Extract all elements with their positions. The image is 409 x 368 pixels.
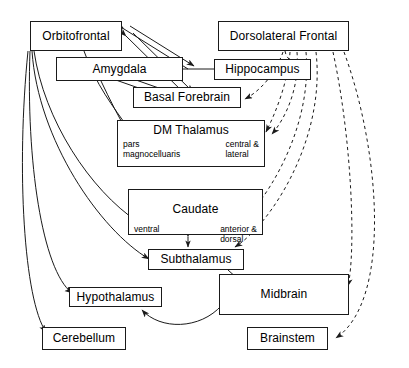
node-midbrain[interactable]: Midbrain — [219, 274, 349, 315]
node-brainstem-label: Brainstem — [260, 332, 315, 345]
circuit-diagram: Orbitofrontal Dorsolateral Frontal Amygd… — [0, 0, 409, 368]
edge-orbitofrontal-hypothalamus — [29, 51, 72, 293]
node-caudate-label: Caudate — [172, 203, 218, 216]
node-dorsolateral-frontal-label: Dorsolateral Frontal — [230, 30, 337, 43]
node-subthalamus-label: Subthalamus — [160, 253, 231, 266]
node-cerebellum[interactable]: Cerebellum — [42, 327, 126, 350]
node-hippocampus-label: Hippocampus — [225, 63, 299, 76]
caudate-sub-left: ventral — [134, 224, 160, 245]
node-hypothalamus[interactable]: Hypothalamus — [69, 287, 162, 307]
node-caudate[interactable]: Caudate ventral anterior & dorsal — [128, 189, 263, 235]
edge-dorsolateral-midbrain — [333, 52, 352, 286]
node-orbitofrontal[interactable]: Orbitofrontal — [30, 21, 122, 51]
node-hippocampus[interactable]: Hippocampus — [214, 59, 311, 80]
dm-thalamus-sub-right: central & lateral — [225, 139, 259, 160]
caudate-sub-right: anterior & dorsal — [220, 224, 257, 245]
node-dorsolateral-frontal[interactable]: Dorsolateral Frontal — [218, 21, 349, 51]
node-midbrain-label: Midbrain — [261, 288, 308, 301]
node-brainstem[interactable]: Brainstem — [247, 327, 328, 350]
edge-midbrain-hypothalamus — [142, 305, 222, 324]
node-dm-thalamus[interactable]: DM Thalamus pars magnocelluaris central … — [117, 120, 265, 167]
dm-thalamus-sub-left: pars magnocelluaris — [123, 139, 180, 160]
node-basal-forebrain-label: Basal Forebrain — [144, 91, 230, 104]
node-subthalamus[interactable]: Subthalamus — [148, 249, 244, 270]
node-cerebellum-label: Cerebellum — [53, 332, 115, 345]
node-amygdala-label: Amygdala — [92, 63, 146, 76]
node-orbitofrontal-label: Orbitofrontal — [42, 30, 109, 43]
node-caudate-subdivisions: ventral anterior & dorsal — [129, 224, 262, 245]
node-dm-thalamus-subdivisions: pars magnocelluaris central & lateral — [118, 139, 264, 160]
edge-orbitofrontal-cerebellum — [22, 51, 46, 332]
node-dm-thalamus-label: DM Thalamus — [153, 124, 229, 137]
node-basal-forebrain[interactable]: Basal Forebrain — [133, 87, 241, 108]
node-amygdala[interactable]: Amygdala — [56, 57, 183, 81]
node-hypothalamus-label: Hypothalamus — [77, 291, 155, 304]
